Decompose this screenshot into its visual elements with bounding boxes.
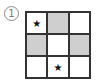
grid-cell-r2c3 <box>69 34 90 56</box>
grid-cell-r3c2: ★ <box>47 56 68 78</box>
circled-number-label: 1 <box>4 6 19 21</box>
grid-cell-r2c1 <box>26 34 47 56</box>
grid-cell-r1c1: ★ <box>26 12 47 34</box>
grid-cell-r1c3 <box>69 12 90 34</box>
grid-cell-r3c1 <box>26 56 47 78</box>
puzzle-grid: ★ ★ <box>25 11 91 79</box>
grid-cell-r3c3 <box>69 56 90 78</box>
grid-cell-r2c2 <box>47 34 68 56</box>
grid-cell-r1c2 <box>47 12 68 34</box>
